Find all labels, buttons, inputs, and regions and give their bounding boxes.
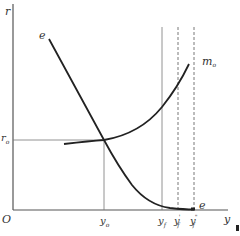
y-f-double-prime-label: y"f	[189, 213, 198, 229]
y-o-label: yo	[99, 215, 110, 228]
origin-label: O	[2, 213, 11, 226]
m-o-curve-label: mo	[202, 55, 216, 68]
y-axis-label: y	[223, 213, 231, 226]
r-o-label: ro	[1, 132, 10, 145]
page-edge-mark	[236, 225, 239, 231]
e-curve-label-top: e	[39, 29, 46, 42]
e-curve-label-bottom: e	[199, 199, 206, 212]
m-o-curve	[64, 64, 189, 144]
economic-diagram: r y O e e mo ro yo yf y'f y"f	[0, 0, 240, 236]
y-f-label: yf	[157, 215, 168, 229]
e-curve-endpoint	[191, 208, 195, 211]
y-f-prime-label: y'f	[173, 213, 181, 229]
e-curve	[49, 39, 194, 210]
r-axis-label: r	[5, 5, 11, 18]
